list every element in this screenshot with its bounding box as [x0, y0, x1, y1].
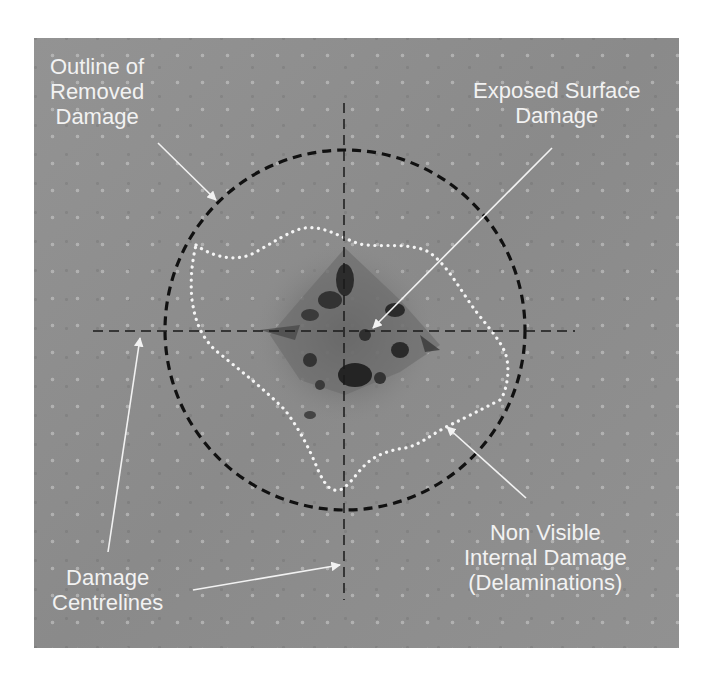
damage-diagram: Outline of Removed Damage Exposed Surfac…: [0, 0, 710, 684]
label-exposed-surface-damage: Exposed Surface Damage: [473, 78, 641, 128]
arrow-outline-removed: [158, 143, 216, 200]
arrow-centreline-vertical: [193, 565, 340, 590]
arrow-non-visible: [447, 427, 526, 498]
label-non-visible-internal-damage: Non Visible Internal Damage (Delaminatio…: [464, 520, 627, 595]
label-damage-centrelines: Damage Centrelines: [52, 565, 163, 615]
exposed-damage-region: [250, 240, 440, 430]
arrow-centreline-horizontal: [108, 338, 140, 552]
label-outline-removed-damage: Outline of Removed Damage: [50, 54, 144, 129]
arrow-exposed-surface: [373, 148, 552, 328]
